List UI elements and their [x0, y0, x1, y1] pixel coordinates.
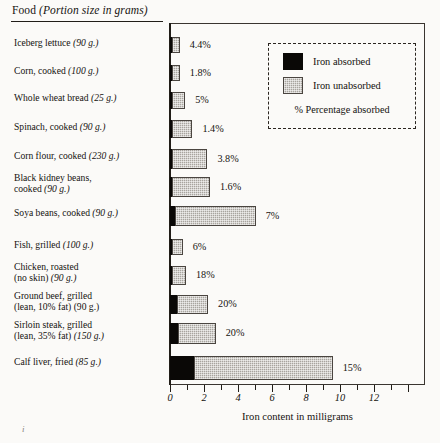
row-label: Spinach, cooked (90 g.) [14, 121, 105, 132]
row-label-name: Black kidney beans, [14, 172, 92, 183]
axis-tick-minor [323, 385, 324, 390]
row-label: Iceberg lettuce (90 g.) [14, 37, 99, 48]
axis-tick-minor [187, 385, 188, 390]
row-label-portion: (100 g.) [68, 65, 98, 76]
axis-tick-label: 2 [201, 392, 206, 403]
bar-segment-unabsorbed [172, 120, 193, 138]
row-label-name: Calf liver, fried [14, 356, 75, 367]
percentage-label: 15% [343, 362, 362, 373]
row-label-portion-line2: (90 g.) [51, 272, 77, 283]
axis-tick-major [170, 385, 171, 392]
bar-segment-unabsorbed [177, 295, 208, 314]
stacked-bar [170, 323, 217, 344]
stacked-bar [170, 177, 211, 197]
percentage-label: 18% [196, 269, 215, 280]
row-label-name: Ground beef, grilled [14, 290, 92, 301]
row-label-name: Corn flour, cooked [14, 150, 89, 161]
stacked-bar [170, 65, 181, 81]
axis-tick-major [272, 385, 273, 392]
row-label-name: Fish, grilled [14, 239, 63, 250]
row-label-portion: (90 g.) [92, 207, 118, 218]
bar-segment-unabsorbed [172, 65, 180, 81]
row-label: Whole wheat bread (25 g.) [14, 92, 117, 103]
stacked-bar [170, 295, 209, 314]
row-label-name: Corn, cooked [14, 65, 68, 76]
header-title-main: Food [12, 4, 39, 16]
axis-tick-label: 6 [269, 392, 274, 403]
axis-tick-label: 8 [303, 392, 308, 403]
axis-tick-label: 0 [167, 392, 172, 403]
stacked-bar [170, 206, 257, 226]
row-label-name: Soya beans, cooked [14, 207, 92, 218]
row-label-portion: (85 g.) [75, 356, 101, 367]
percentage-label: 7% [266, 210, 280, 221]
percentage-label: 1.8% [190, 67, 211, 78]
axis-tick-major [204, 385, 205, 392]
row-label: Corn, cooked (100 g.) [14, 65, 98, 76]
stacked-bar [170, 120, 193, 138]
stacked-bar [170, 356, 334, 380]
row-label-name-line2: (lean, 35% fat) [14, 330, 74, 341]
row-label-name: Spinach, cooked [14, 121, 80, 132]
row-label-portion: (25 g.) [91, 92, 117, 103]
axis-tick-minor [255, 385, 256, 390]
bar-segment-absorbed [170, 356, 195, 380]
stacked-bar [170, 37, 181, 53]
percentage-label: 6% [193, 241, 207, 252]
axis-tick-minor [391, 385, 392, 390]
legend-item-absorbed: Iron absorbed [283, 53, 370, 70]
row-label-portion-line2: (90 g.) [44, 183, 70, 194]
stacked-bar [170, 92, 186, 109]
bar-segment-unabsorbed [172, 239, 183, 255]
chart-header: Food (Portion size in grams) [12, 4, 428, 16]
stacked-bar [170, 149, 208, 169]
corner-mark: i [22, 424, 25, 434]
axis-tick-major [238, 385, 239, 392]
axis-tick-major [408, 385, 409, 392]
legend-note: % Percentage absorbed [269, 104, 415, 115]
legend-label-unabsorbed: Iron unabsorbed [313, 80, 381, 91]
axis-tick-major [340, 385, 341, 392]
percentage-label: 20% [218, 298, 237, 309]
row-label-portion: (100 g.) [63, 239, 93, 250]
bar-segment-unabsorbed [178, 323, 215, 344]
legend-item-unabsorbed: Iron unabsorbed [283, 77, 381, 94]
row-label-portion: (90 g.) [73, 37, 99, 48]
percentage-label: 1.6% [220, 181, 241, 192]
percentage-label: 4.4% [190, 39, 211, 50]
percentage-label: 20% [226, 327, 245, 338]
bar-segment-unabsorbed [172, 177, 210, 197]
bar-segment-unabsorbed [172, 92, 186, 109]
row-label-name: Whole wheat bread [14, 92, 91, 103]
percentage-label: 5% [195, 94, 209, 105]
row-label-name-line2: (no skin) [14, 272, 51, 283]
row-label: Soya beans, cooked (90 g.) [14, 207, 118, 218]
axis-tick-label: 4 [235, 392, 240, 403]
row-label: Calf liver, fried (85 g.) [14, 356, 101, 367]
row-label: Fish, grilled (100 g.) [14, 239, 93, 250]
row-label-portion: (90 g.) [80, 121, 106, 132]
row-label: Sirloin steak, grilled(lean, 35% fat) (1… [14, 319, 104, 342]
bar-segment-unabsorbed [175, 206, 256, 226]
axis-tick-minor [221, 385, 222, 390]
axis-tick-label: 10 [335, 392, 345, 403]
row-label-name-line2: cooked [14, 183, 44, 194]
bar-segment-unabsorbed [172, 149, 208, 169]
row-label-name: Chicken, roasted [14, 261, 78, 272]
axis-tick-minor [357, 385, 358, 390]
legend-swatch-unabsorbed-icon [283, 77, 303, 94]
axis-tick-minor [289, 385, 290, 390]
header-title-emphasis: (Portion size in grams) [39, 4, 148, 16]
row-label-name: Iceberg lettuce [14, 37, 73, 48]
row-label-portion: (230 g.) [89, 150, 119, 161]
row-label: Ground beef, grilled(lean, 10% fat) (90 … [14, 290, 99, 313]
axis-tick-label: 12 [369, 392, 379, 403]
row-label: Corn flour, cooked (230 g.) [14, 150, 119, 161]
axis-tick-major [306, 385, 307, 392]
row-label: Black kidney beans,cooked (90 g.) [14, 172, 92, 195]
row-label: Chicken, roasted(no skin) (90 g.) [14, 261, 78, 284]
x-axis-title: Iron content in milligrams [170, 411, 425, 422]
bar-segment-unabsorbed [172, 266, 186, 285]
legend-box: Iron absorbed Iron unabsorbed % Percenta… [268, 43, 416, 129]
percentage-label: 3.8% [217, 153, 238, 164]
